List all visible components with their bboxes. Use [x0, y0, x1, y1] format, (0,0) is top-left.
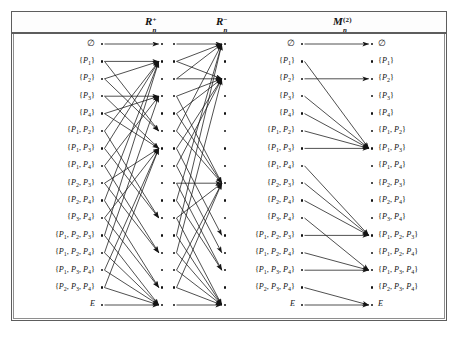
edge-rplus-6-to-1 — [105, 61, 159, 148]
edge-rminus-11-to-15 — [177, 235, 222, 305]
edge-rminus-4-to-2 — [177, 79, 222, 114]
edge-m2-7-to-11 — [305, 166, 369, 236]
edge-m2-8-to-11 — [305, 183, 369, 235]
figure-root: R+n R−n M(2)n ∅∅∅{P1}{P1}{P1}{P2}{P2}{P2… — [0, 0, 459, 337]
edge-rminus-5-to-0 — [177, 44, 222, 131]
edge-m2-9-to-11 — [305, 201, 369, 236]
edge-rplus-3-to-6 — [105, 96, 159, 148]
edge-m2-12-to-13 — [305, 253, 369, 270]
edge-rplus-14-to-6 — [105, 148, 159, 287]
edge-rminus-7-to-12 — [177, 166, 222, 253]
edge-rminus-10-to-15 — [177, 218, 222, 305]
edge-rplus-12-to-15 — [105, 253, 159, 305]
edge-m2-10-to-13 — [305, 218, 369, 270]
edge-rplus-11-to-15 — [105, 235, 159, 305]
figure-frame: R+n R−n M(2)n ∅∅∅{P1}{P1}{P1}{P2}{P2}{P2… — [11, 11, 447, 321]
edge-rminus-6-to-2 — [177, 79, 222, 149]
edge-rminus-1-to-0 — [177, 44, 222, 61]
edge-rplus-12-to-3 — [105, 96, 159, 253]
edge-rplus-9-to-14 — [105, 201, 159, 288]
edge-rminus-11-to-0 — [177, 44, 222, 235]
edge-m2-3-to-6 — [305, 96, 369, 148]
edge-rminus-9-to-0 — [177, 44, 222, 201]
edge-m2-5-to-6 — [305, 131, 369, 148]
edge-layer — [12, 12, 448, 322]
edge-rplus-2-to-1 — [105, 61, 159, 78]
edge-m2-4-to-6 — [305, 114, 369, 149]
edge-m2-14-to-15 — [305, 288, 369, 305]
edge-m2-1-to-6 — [305, 61, 369, 148]
edge-rplus-14-to-15 — [105, 288, 159, 305]
edge-rplus-13-to-15 — [105, 270, 159, 305]
edge-rminus-14-to-8 — [177, 183, 222, 287]
edge-rminus-4-to-8 — [177, 114, 222, 184]
edge-rminus-12-to-15 — [177, 253, 222, 305]
edge-rminus-6-to-11 — [177, 148, 222, 235]
edge-rminus-14-to-15 — [177, 288, 222, 305]
edge-rplus-9-to-1 — [105, 61, 159, 200]
edge-rminus-10-to-8 — [177, 183, 222, 218]
edge-rminus-1-to-2 — [177, 61, 222, 78]
edge-rminus-13-to-15 — [177, 270, 222, 305]
